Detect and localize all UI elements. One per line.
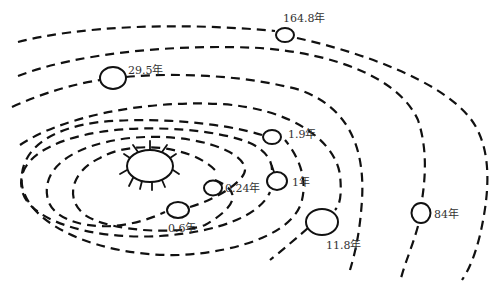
planet-neptune-icon xyxy=(276,28,294,42)
planet-jupiter: 11.8年 xyxy=(306,209,362,252)
orbits xyxy=(12,26,487,282)
period-label-jupiter: 11.8年 xyxy=(326,238,362,252)
planet-venus-icon xyxy=(167,202,189,218)
period-label-mars: 1.9年 xyxy=(288,127,317,141)
solar-system-diagram: 0.24年 0.6年 1年 1.9年 11.8年 29.5年 84年 xyxy=(0,0,498,288)
period-label-venus: 0.6年 xyxy=(168,221,197,235)
planet-mars-icon xyxy=(263,130,281,144)
period-label-saturn: 29.5年 xyxy=(128,63,164,77)
planet-earth-icon xyxy=(267,172,287,190)
planet-uranus: 84年 xyxy=(412,203,460,223)
period-label-uranus: 84年 xyxy=(434,207,459,221)
period-label-mercury: 0.24年 xyxy=(225,181,261,195)
planet-mercury-icon xyxy=(204,181,222,196)
planet-mars: 1.9年 xyxy=(263,127,317,144)
period-label-earth: 1年 xyxy=(292,175,310,189)
orbit-saturn xyxy=(12,75,362,270)
planet-neptune: 164.8年 xyxy=(276,11,326,42)
planet-mercury: 0.24年 xyxy=(204,181,261,196)
planet-earth: 1年 xyxy=(267,166,310,190)
planet-saturn-icon xyxy=(100,67,126,89)
planet-saturn: 29.5年 xyxy=(100,63,164,89)
planet-uranus-icon xyxy=(412,203,431,223)
orbit-uranus xyxy=(18,47,425,282)
planet-jupiter-icon xyxy=(306,209,338,235)
period-label-neptune: 164.8年 xyxy=(283,11,326,25)
